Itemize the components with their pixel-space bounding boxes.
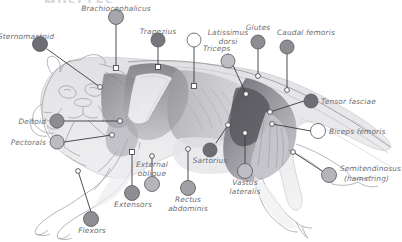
label-vastus-line1: Vastus (219, 178, 271, 187)
anchor-glutes (256, 74, 261, 79)
label-vastus-line2: lateralis (219, 187, 271, 196)
anchor-external-oblique (150, 154, 155, 159)
label-external-oblique-line2: oblique (122, 169, 182, 178)
anatomy-figure: MUSCLES (0, 0, 402, 242)
label-trapezius: Trapezius (126, 27, 190, 36)
marker-latissimus-dorsi[interactable] (221, 54, 235, 68)
marker-deltoid[interactable] (50, 114, 64, 128)
marker-pectorals[interactable] (50, 135, 64, 149)
marker-flexors[interactable] (84, 212, 99, 227)
marker-sartorius[interactable] (203, 143, 217, 157)
label-biceps-femoris: Biceps femoris (329, 127, 402, 136)
label-brachiocephalicus: Brachiocephalicus (66, 4, 166, 13)
anchor-sartorius (226, 123, 231, 128)
marker-extensors[interactable] (125, 186, 140, 201)
anchor-rectus-abdominis (186, 147, 191, 152)
label-semitendinosus-line2: (hamstring) (344, 174, 402, 183)
anchor-semitendinosus (291, 150, 296, 155)
label-deltoid: Deltoid (0, 117, 46, 126)
anchor-biceps-femoris (270, 122, 275, 127)
label-tensor-fasciae: Tensor fasciae (321, 97, 401, 106)
anchor-flexors (76, 169, 81, 174)
anchor-sternomastoid (98, 85, 103, 90)
marker-caudal-femoris[interactable] (280, 40, 294, 54)
label-semitendinosus-line1: Semitendinosus (340, 164, 402, 173)
anchor-extensors (130, 150, 135, 155)
anchor-deltoid (118, 119, 123, 124)
label-latissimus-dorsi-line2: dorsi (197, 37, 259, 46)
label-extensors: Extensors (104, 200, 162, 209)
label-sartorius: Sartorius (182, 156, 238, 165)
anchor-pectorals (110, 133, 115, 138)
marker-semitendinosus[interactable] (322, 168, 337, 183)
label-caudal-femoris: Caudal femoris (277, 28, 357, 37)
label-rectus-line1: Rectus (160, 195, 216, 204)
anchor-trapezius (156, 65, 161, 70)
leader-semitendinosus (293, 152, 322, 171)
label-sternomastoid: Sternomastoid (0, 32, 54, 41)
label-external-oblique-line1: External (122, 160, 182, 169)
anchor-tensor-fasciae (268, 110, 273, 115)
marker-tensor-fasciae[interactable] (304, 94, 318, 108)
label-flexors: Flexors (66, 226, 118, 235)
anchor-caudal-femoris (285, 88, 290, 93)
anchor-triceps (192, 84, 197, 89)
marker-biceps-femoris[interactable] (311, 124, 326, 139)
anchor-vastus-lateralis (243, 131, 248, 136)
label-rectus-line2: abdominis (156, 204, 220, 213)
anchor-brachiocephalicus (114, 66, 119, 71)
marker-external-oblique[interactable] (145, 177, 160, 192)
marker-vastus-lateralis[interactable] (238, 164, 253, 179)
label-pectorals: Pectorals (0, 138, 46, 147)
anchor-latissimus (244, 92, 249, 97)
marker-rectus-abdominis[interactable] (181, 181, 196, 196)
